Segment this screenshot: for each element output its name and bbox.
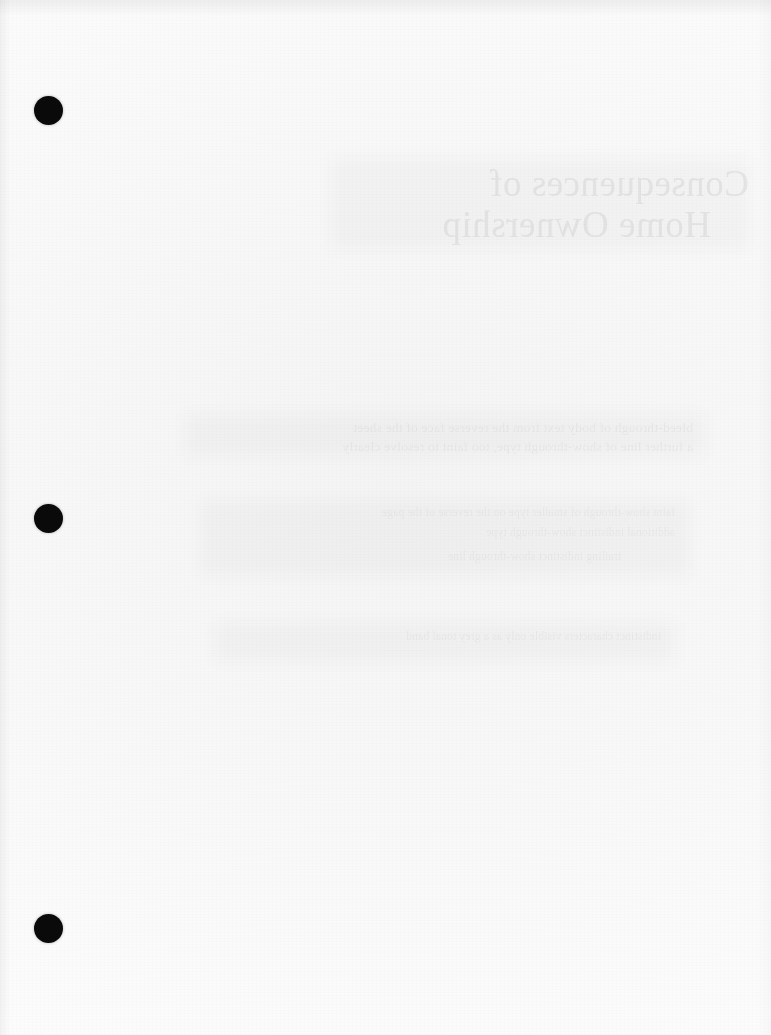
paper-background bbox=[0, 0, 771, 1035]
middle-punch-hole bbox=[34, 504, 63, 533]
scanned-page: Consequences of Home Ownership bleed-thr… bbox=[0, 0, 771, 1035]
bottom-punch-hole bbox=[34, 914, 63, 943]
top-punch-hole bbox=[34, 96, 63, 125]
